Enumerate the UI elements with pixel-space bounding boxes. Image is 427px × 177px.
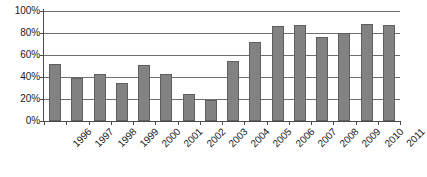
x-tick-2003 (200, 121, 201, 125)
bar-2006 (272, 26, 284, 121)
x-tick-1999 (111, 121, 112, 125)
y-tick-label-60: 60% (20, 50, 40, 60)
bar-2002 (183, 94, 195, 122)
x-tick-label-2011: 2011 (404, 126, 427, 149)
y-tick-label-0: 0% (26, 116, 40, 126)
x-tick-2008 (311, 121, 312, 125)
bar-1997 (71, 78, 83, 121)
bar-1999 (116, 83, 128, 122)
x-tick-2011 (378, 121, 379, 125)
x-tick-label-2004: 2004 (249, 126, 272, 149)
x-tick-label-2003: 2003 (226, 126, 249, 149)
x-tick-1998 (89, 121, 90, 125)
bar-2001 (160, 74, 172, 121)
x-tick-2005 (244, 121, 245, 125)
x-tick-label-2002: 2002 (204, 126, 227, 149)
x-tick-label-2010: 2010 (382, 126, 405, 149)
plot-area (44, 11, 400, 121)
x-tick-2000 (133, 121, 134, 125)
x-tick-label-2000: 2000 (160, 126, 183, 149)
x-tick-label-2009: 2009 (360, 126, 383, 149)
x-tick-2001 (155, 121, 156, 125)
bar-2008 (316, 37, 328, 121)
x-tick-2009 (333, 121, 334, 125)
bar-2005 (249, 42, 261, 121)
x-axis-ticks (44, 121, 402, 125)
x-tick-label-2001: 2001 (182, 126, 205, 149)
bar-2011 (383, 25, 395, 121)
x-tick-2002 (178, 121, 179, 125)
x-tick-2006 (267, 121, 268, 125)
x-tick-label-1996: 1996 (71, 126, 94, 149)
x-tick-1997 (66, 121, 67, 125)
bar-2009 (338, 33, 350, 121)
x-tick-1996 (44, 121, 45, 125)
bar-2000 (138, 65, 150, 121)
x-tick-2004 (222, 121, 223, 125)
x-tick-label-1999: 1999 (137, 126, 160, 149)
x-axis-tick-labels: 1996199719981999200020012002200320042005… (44, 126, 402, 177)
y-tick-label-40: 40% (20, 72, 40, 82)
x-tick-2010 (356, 121, 357, 125)
x-tick-label-1997: 1997 (93, 126, 116, 149)
y-tick-label-20: 20% (20, 94, 40, 104)
x-tick-label-2006: 2006 (293, 126, 316, 149)
y-tick-label-100: 100% (15, 6, 40, 16)
x-tick-label-2008: 2008 (338, 126, 361, 149)
x-tick-label-2007: 2007 (315, 126, 338, 149)
bar-series (44, 11, 400, 121)
bar-2010 (361, 24, 373, 121)
y-tick-label-80: 80% (20, 28, 40, 38)
bar-1998 (94, 74, 106, 121)
x-tick-label-2005: 2005 (271, 126, 294, 149)
bar-1996 (49, 64, 61, 121)
bar-2003 (205, 100, 217, 121)
x-tick-2007 (289, 121, 290, 125)
x-tick-label-1998: 1998 (115, 126, 138, 149)
bar-2007 (294, 25, 306, 121)
bar-2004 (227, 61, 239, 122)
y-axis-tick-labels: 100% 80% 60% 40% 20% 0% (0, 0, 44, 177)
x-tick-end (400, 121, 401, 125)
